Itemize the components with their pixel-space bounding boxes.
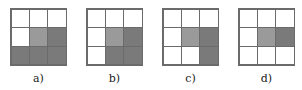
grid-cell [29,27,48,47]
panel-a: a) [10,0,86,90]
grid-cell [181,9,200,29]
grid-cell [87,27,106,47]
grid-cell [105,9,124,29]
grid-a [10,8,67,66]
grid-cell [123,46,142,66]
grid-cell [163,46,182,66]
grid-cell [199,9,218,29]
grid-cell [11,46,30,66]
grid-cell [257,27,276,47]
grid-cell [275,46,294,66]
grid-cell [11,9,30,29]
grid-cell [87,46,106,66]
grid-d [238,8,295,66]
grid-cell [47,27,66,47]
panel-label-c: c) [162,72,219,85]
grid-cell [239,27,258,47]
panel-c: c) [162,0,238,90]
grid-cell [123,9,142,29]
grid-cell [275,9,294,29]
grid-cell [199,27,218,47]
grid-cell [47,9,66,29]
grid-cell [199,46,218,66]
grid-cell [29,9,48,29]
grid-cell [29,46,48,66]
grid-cell [87,9,106,29]
panel-label-b: b) [86,72,143,85]
grid-cell [11,27,30,47]
grid-cell [239,9,258,29]
grid-cell [123,27,142,47]
grid-cell [163,27,182,47]
grid-cell [105,27,124,47]
grid-cell [181,27,200,47]
grid-cell [275,27,294,47]
panel-d: d) [238,0,302,90]
grid-cell [257,46,276,66]
grid-c [162,8,219,66]
grid-cell [181,46,200,66]
grid-cell [239,46,258,66]
grid-cell [105,46,124,66]
panel-label-a: a) [10,72,67,85]
grid-cell [163,9,182,29]
grid-cell [47,46,66,66]
panel-b: b) [86,0,162,90]
grid-cell [257,9,276,29]
grid-b [86,8,143,66]
panel-label-d: d) [238,72,295,85]
